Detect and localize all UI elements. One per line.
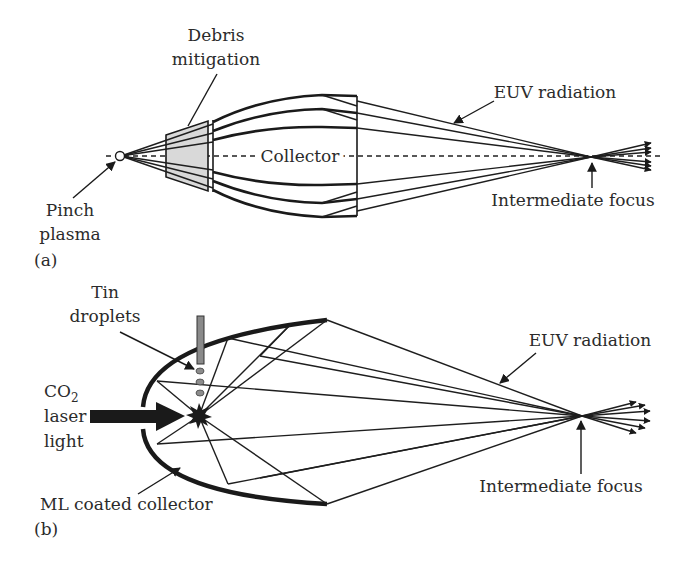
label-collector: Collector (261, 146, 341, 166)
label-tin: Tin (91, 282, 119, 302)
label-debris-line2: mitigation (172, 49, 260, 69)
tin-droplet (196, 390, 204, 396)
panel-label-a: (a) (34, 250, 57, 270)
panel-a: Debris mitigation Collector EUV radiatio… (34, 25, 660, 270)
collector-pointer (138, 468, 180, 494)
label-laser: laser (44, 406, 87, 426)
panel-b: Tin droplets CO2 laser light EUV radiati… (34, 282, 651, 539)
plasma-pointer (73, 162, 115, 198)
label-debris-line1: Debris (188, 25, 245, 45)
debris-pointer (188, 74, 217, 126)
euv-source-diagram: Debris mitigation Collector EUV radiatio… (0, 0, 687, 561)
label-plasma: plasma (39, 224, 100, 244)
label-droplets: droplets (69, 306, 140, 326)
tin-droplet-nozzle (197, 316, 204, 364)
label-intermediate-focus-a: Intermediate focus (491, 190, 654, 210)
pinch-plasma-point (116, 152, 125, 161)
label-euv-radiation-a: EUV radiation (494, 82, 617, 102)
label-euv-radiation-b: EUV radiation (529, 330, 652, 350)
tin-pointer (120, 332, 194, 369)
label-ml-collector: ML coated collector (40, 494, 213, 514)
label-pinch: Pinch (46, 200, 94, 220)
panel-label-b: (b) (34, 519, 58, 539)
label-light: light (44, 431, 84, 451)
debris-mitigation-trap (166, 121, 208, 191)
tin-droplet (196, 368, 204, 374)
co2-laser-arrow (90, 402, 185, 431)
tin-droplet (196, 379, 204, 385)
euv-pointer-b (500, 353, 536, 383)
euv-pointer-a (454, 101, 494, 123)
label-co2: CO2 (44, 381, 79, 405)
label-intermediate-focus-b: Intermediate focus (479, 476, 642, 496)
